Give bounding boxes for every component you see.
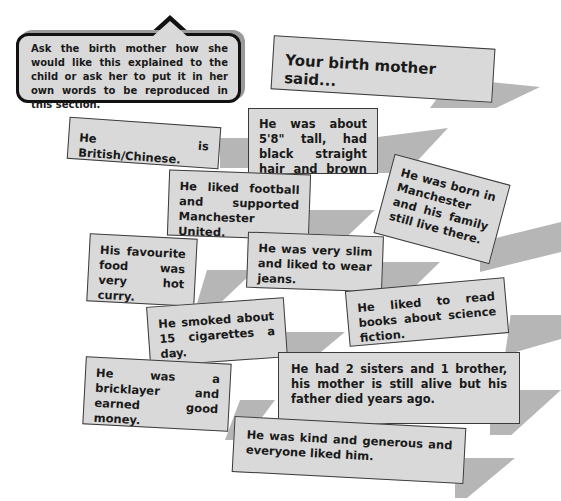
fact-card-football: He liked football and supported Manchest… (167, 170, 311, 241)
fact-card-build: He was very slim and liked to wear jeans… (246, 232, 384, 293)
card-text: He was very slim and liked to wear jeans… (257, 241, 372, 286)
instruction-speech-bubble: Ask the birth mother how she would like … (16, 33, 241, 103)
card-text: He liked to read books about science fic… (357, 289, 497, 345)
card-text: He is British/Chinese. (78, 130, 210, 166)
title-card: Your birth mother said... (271, 35, 496, 102)
birth-father-facts-page: Ask the birth mother how she would like … (0, 0, 561, 501)
fact-card-birthplace: He was born in Manchester and his family… (373, 154, 510, 264)
fact-card-appearance: He was about 5'8" tall, had black straig… (248, 108, 378, 174)
fact-card-personality: He was kind and generous and everyone li… (232, 416, 467, 484)
card-text: He smoked about 15 cigarettes a day. (158, 309, 276, 361)
card-text: He was born in Manchester and his family… (388, 165, 498, 246)
card-text: His favourite food was very hot curry. (97, 243, 186, 304)
fact-card-job: He was a bricklayer and earned good mone… (82, 356, 231, 432)
instruction-text: Ask the birth mother how she would like … (31, 43, 228, 110)
card-text: He liked football and supported Manchest… (178, 179, 300, 240)
fact-card-smoking: He smoked about 15 cigarettes a day. (146, 297, 288, 366)
card-text: He was kind and generous and everyone li… (246, 428, 453, 464)
page-title: Your birth mother said... (284, 51, 437, 90)
fact-card-food: His favourite food was very hot curry. (86, 233, 197, 307)
books-card-shadow (505, 315, 561, 355)
fact-card-family: He had 2 sisters and 1 brother, his moth… (278, 352, 520, 424)
card-text: He was a bricklayer and earned good mone… (93, 366, 220, 427)
card-text: He had 2 sisters and 1 brother, his moth… (291, 362, 507, 406)
speech-bubble-tail-fill (152, 21, 188, 37)
fact-card-heritage: He is British/Chinese. (67, 117, 222, 170)
